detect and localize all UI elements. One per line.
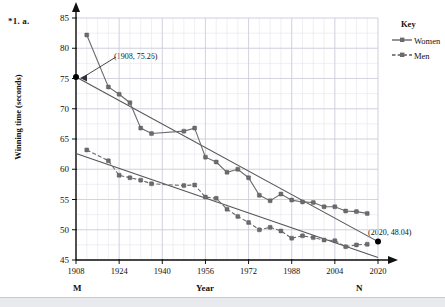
svg-text:65: 65 [60, 134, 70, 144]
svg-text:1956: 1956 [197, 266, 214, 276]
svg-text:80: 80 [60, 43, 70, 53]
svg-text:60: 60 [60, 164, 70, 174]
axis-lines [72, 2, 398, 264]
svg-text:85: 85 [60, 13, 70, 23]
svg-text:1924: 1924 [111, 266, 129, 276]
svg-text:55: 55 [60, 195, 70, 205]
svg-text:2020: 2020 [370, 266, 387, 276]
scatter-line-chart: 4550556065707580851908192419401956197219… [0, 0, 445, 307]
legend-markers [392, 38, 412, 57]
svg-text:1908: 1908 [68, 266, 85, 276]
svg-text:1988: 1988 [283, 266, 300, 276]
svg-text:75: 75 [60, 74, 70, 84]
svg-text:70: 70 [60, 104, 70, 114]
axis-tick-labels: 4550556065707580851908192419401956197219… [60, 13, 387, 276]
svg-text:2004: 2004 [326, 266, 344, 276]
svg-text:50: 50 [60, 225, 70, 235]
svg-text:1940: 1940 [154, 266, 171, 276]
window-bottom-bar [0, 297, 445, 307]
svg-text:1972: 1972 [240, 266, 257, 276]
svg-text:45: 45 [60, 255, 70, 265]
axis-ticks [72, 18, 378, 264]
